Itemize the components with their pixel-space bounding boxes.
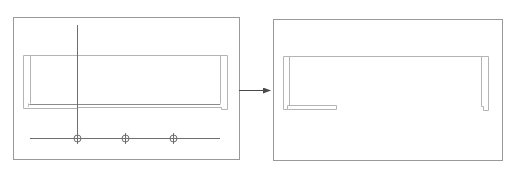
after-profile-shape <box>284 57 489 111</box>
before-profile-shape <box>24 56 228 110</box>
after-frame <box>274 20 503 161</box>
after-panel <box>274 20 503 161</box>
diagram-canvas <box>0 0 513 170</box>
before-panel <box>14 18 240 160</box>
